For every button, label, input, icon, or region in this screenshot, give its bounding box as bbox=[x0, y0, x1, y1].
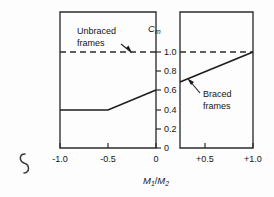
y-tick-label: 1.0 bbox=[164, 47, 177, 57]
y-tick-label: 0.2 bbox=[164, 124, 177, 134]
annotation-unbraced-line1: Unbraced bbox=[77, 26, 116, 36]
right-panel-frame bbox=[180, 12, 253, 148]
y-axis-label: Cm bbox=[148, 23, 161, 35]
annotation-braced-frames: Braced frames bbox=[188, 79, 232, 112]
annotation-braced-line2: frames bbox=[203, 101, 231, 111]
squiggle-mark bbox=[20, 154, 28, 173]
y-tick-label: 0.8 bbox=[164, 66, 177, 76]
y-tick-label: 0.6 bbox=[164, 85, 177, 95]
x-tick-label: 0 bbox=[153, 154, 158, 164]
x-axis-ticks bbox=[60, 143, 253, 148]
x-tick-label: +0.5 bbox=[196, 154, 214, 164]
figure-container: Cm 1.0 0.8 0.6 0.4 0.2 0 -1.0 -0.5 0 +0.… bbox=[0, 0, 274, 197]
x-tick-label: -0.5 bbox=[100, 154, 116, 164]
y-axis-ticks bbox=[156, 52, 161, 148]
chart-canvas: Cm 1.0 0.8 0.6 0.4 0.2 0 -1.0 -0.5 0 +0.… bbox=[0, 0, 274, 197]
x-axis-label: M1/M2 bbox=[143, 175, 169, 187]
x-tick-label: -1.0 bbox=[52, 154, 68, 164]
annotation-unbraced-frames: Unbraced frames bbox=[77, 26, 132, 53]
annotation-braced-line1: Braced bbox=[203, 89, 232, 99]
y-tick-label: 0.4 bbox=[164, 105, 177, 115]
y-tick-label: 0 bbox=[164, 143, 169, 153]
annotation-unbraced-line2: frames bbox=[77, 38, 105, 48]
x-tick-label: +1.0 bbox=[244, 154, 262, 164]
